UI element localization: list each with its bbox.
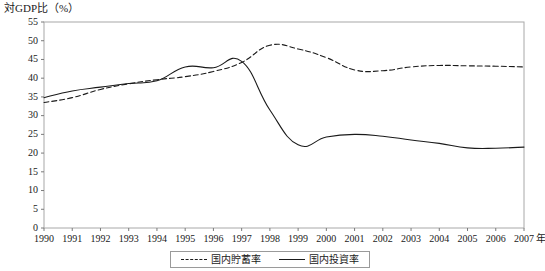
legend-item-investment: 国内投資率 (279, 254, 359, 265)
legend-swatch-solid-icon (279, 259, 305, 260)
x-tick-label: 2007 (514, 233, 534, 244)
x-tick-label: 1995 (175, 233, 195, 244)
x-tick-label: 1996 (203, 233, 223, 244)
x-axis-ticks: 1990199119921993199419951996199719981999… (34, 228, 545, 244)
x-tick-label: 1992 (90, 233, 110, 244)
x-tick-label: 1990 (34, 233, 54, 244)
legend-swatch-dashed-icon (181, 259, 207, 260)
y-axis-ticks: 0510152025303540455055 (28, 16, 44, 233)
y-tick-label: 25 (28, 128, 38, 139)
x-tick-label: 2005 (458, 233, 478, 244)
y-tick-label: 30 (28, 109, 38, 120)
x-tick-label: 1994 (147, 233, 167, 244)
x-tick-label: 2004 (429, 233, 449, 244)
x-tick-label: 2002 (373, 233, 393, 244)
chart-legend: 国内貯蓄率 国内投資率 (170, 251, 370, 268)
y-tick-label: 20 (28, 147, 38, 158)
x-tick-label: 2006 (486, 233, 506, 244)
x-tick-label: 2003 (401, 233, 421, 244)
x-tick-label: 1999 (288, 233, 308, 244)
x-tick-label: 1997 (232, 233, 252, 244)
legend-label-savings: 国内貯蓄率 (211, 254, 261, 265)
x-tick-label: 1993 (119, 233, 139, 244)
x-tick-label: 1998 (260, 233, 280, 244)
chart-container: 対GDP比（%） 0510152025303540455055 19901991… (0, 0, 545, 271)
y-tick-label: 10 (28, 184, 38, 195)
legend-item-savings: 国内貯蓄率 (181, 254, 261, 265)
y-tick-label: 40 (28, 72, 38, 83)
y-tick-label: 45 (28, 53, 38, 64)
x-tick-label: 2000 (316, 233, 336, 244)
y-tick-label: 0 (33, 222, 38, 233)
legend-label-investment: 国内投資率 (309, 254, 359, 265)
chart-plot-area: 0510152025303540455055 19901991199219931… (0, 0, 545, 271)
y-tick-label: 50 (28, 35, 38, 46)
x-axis-unit-label: 年 (536, 232, 545, 244)
y-tick-label: 5 (33, 203, 38, 214)
x-tick-label: 1991 (62, 233, 82, 244)
plot-frame (44, 22, 524, 228)
y-tick-label: 55 (28, 16, 38, 27)
x-tick-label: 2001 (345, 233, 365, 244)
y-tick-label: 15 (28, 166, 38, 177)
y-tick-label: 35 (28, 91, 38, 102)
